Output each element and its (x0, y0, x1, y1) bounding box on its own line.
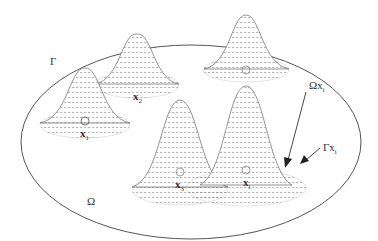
peak-label-xi: xi (243, 177, 250, 191)
boundary-label: Γ (50, 56, 56, 67)
domain-label: Ω (87, 196, 95, 207)
peak-label-x3: x3 (175, 179, 184, 193)
peak-label-x1: x1 (80, 128, 89, 142)
gaussian-peak-x2 (95, 34, 179, 98)
peak-label-x2: x2 (133, 91, 142, 105)
diagram-canvas (0, 0, 378, 241)
subdomain-label: Ωxi (309, 80, 325, 94)
sub-boundary-arrow (300, 148, 320, 164)
sub-boundary-label: Γxi (323, 142, 337, 156)
subdomain-arrow (284, 92, 306, 168)
gaussian-peak-top (203, 15, 289, 82)
